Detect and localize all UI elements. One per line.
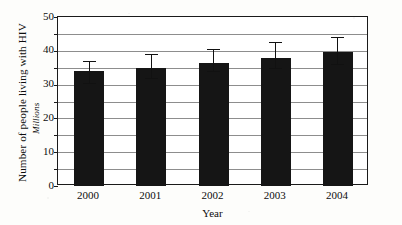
- y-axis-tick-mark: [54, 169, 58, 170]
- bar-2003: [261, 58, 291, 186]
- error-bar-line-2002: [213, 49, 214, 71]
- gridline: [58, 34, 367, 35]
- error-bar-cap-lower-2003: [269, 68, 282, 69]
- bar-2000: [74, 71, 104, 186]
- y-axis-tick-mark: [54, 34, 58, 35]
- error-bar-cap-upper-2004: [331, 37, 344, 38]
- x-axis-tick-label-2001: 2001: [120, 190, 180, 201]
- error-bar-cap-upper-2003: [269, 42, 282, 43]
- y-axis-tick-labels: 50403020100: [26, 0, 54, 190]
- y-axis-tick-label: 10: [32, 146, 54, 157]
- y-axis-tick-mark: [54, 152, 58, 153]
- y-axis-tick-label: 0: [32, 180, 54, 191]
- error-bar-line-2003: [275, 42, 276, 67]
- error-bar-cap-upper-2000: [83, 61, 96, 62]
- bar-chart: Number of people living with HIV Million…: [0, 0, 402, 225]
- y-axis-tick-mark: [54, 186, 58, 187]
- y-axis-tick-mark: [54, 68, 58, 69]
- y-axis-tick-label: 30: [32, 78, 54, 89]
- error-bar-cap-lower-2000: [83, 83, 96, 84]
- x-axis-tick-label-2003: 2003: [245, 190, 305, 201]
- plot-area: [57, 16, 368, 185]
- bar-2004: [323, 52, 353, 186]
- error-bar-cap-upper-2002: [207, 49, 220, 50]
- x-axis-tick-label-2004: 2004: [307, 190, 367, 201]
- y-axis-tick-label: 20: [32, 112, 54, 123]
- y-axis-tick-mark: [54, 135, 58, 136]
- y-axis-tick-mark: [54, 102, 58, 103]
- y-axis-tick-mark: [54, 118, 58, 119]
- error-bar-cap-lower-2004: [331, 64, 344, 65]
- bar-2001: [136, 68, 166, 186]
- y-axis-tick-mark: [54, 17, 58, 18]
- error-bar-line-2004: [337, 37, 338, 64]
- x-axis-title: Year: [57, 207, 368, 219]
- error-bar-cap-upper-2001: [145, 54, 158, 55]
- y-axis-tick-label: 40: [32, 44, 54, 55]
- y-axis-tick-mark: [54, 51, 58, 52]
- x-axis-tick-label-2002: 2002: [183, 190, 243, 201]
- error-bar-line-2001: [151, 54, 152, 78]
- y-axis-tick-mark: [54, 85, 58, 86]
- error-bar-line-2000: [89, 61, 90, 83]
- error-bar-cap-lower-2001: [145, 78, 158, 79]
- y-axis-tick-label: 50: [32, 11, 54, 22]
- error-bar-cap-lower-2002: [207, 71, 220, 72]
- bar-2002: [199, 63, 229, 186]
- x-axis-tick-label-2000: 2000: [58, 190, 118, 201]
